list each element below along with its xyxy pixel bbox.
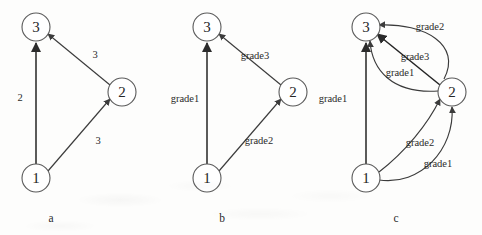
edge-label-2-to-3-grade3: grade3	[401, 51, 430, 62]
edge-2-to-3	[48, 34, 110, 85]
panel-caption-a: a	[48, 212, 53, 224]
edge-label-1-to-2-grade1: grade1	[424, 158, 453, 169]
panel-b: 3 2 1 grade1 grade3 grade2 b	[171, 13, 307, 224]
node-2-label: 2	[448, 84, 456, 100]
panel-caption-b: b	[219, 212, 225, 224]
edge-label-1-to-3-grade1: grade1	[319, 93, 348, 104]
node-3-label: 3	[203, 19, 211, 35]
node-1-label: 1	[203, 170, 211, 186]
panel-a: 3 2 1 2 3 3 a	[17, 13, 136, 224]
figure-graph-comparison: 3 2 1 2 3 3 a 3 2 1 grade1 grade3 grade2	[0, 0, 482, 235]
edge-label-1-to-3: grade1	[171, 93, 200, 104]
edge-label-2-to-3: 3	[92, 49, 97, 60]
edge-1-to-2	[48, 99, 110, 171]
edge-label-2-to-3: grade3	[241, 50, 270, 61]
edge-label-1-to-2-grade2: grade2	[406, 137, 435, 148]
edge-label-2-to-3-grade1: grade1	[386, 67, 415, 78]
node-2-label: 2	[118, 84, 126, 100]
edge-label-1-to-3: 2	[17, 92, 22, 103]
edge-label-1-to-2: grade2	[245, 135, 274, 146]
panel-c: 3 2 1 grade1 grade2 grade3 grade1 grade2…	[319, 13, 466, 224]
node-1-label: 1	[362, 170, 370, 186]
node-3-label: 3	[32, 19, 40, 35]
graph-svg: 3 2 1 2 3 3 a 3 2 1 grade1 grade3 grade2	[0, 0, 482, 235]
edge-label-1-to-2: 3	[95, 135, 100, 146]
node-1-label: 1	[32, 170, 40, 186]
node-3-label: 3	[362, 19, 370, 35]
node-2-label: 2	[289, 84, 297, 100]
panel-caption-c: c	[393, 212, 398, 224]
edge-label-2-to-3-grade2: grade2	[416, 21, 445, 32]
